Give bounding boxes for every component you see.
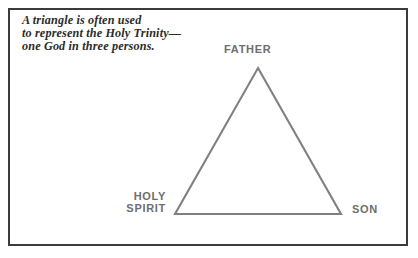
figure-page: A triangle is often used to represent th… [0, 0, 418, 258]
trinity-triangle-diagram [0, 0, 418, 258]
vertex-label-holy-spirit: HOLY SPIRIT [98, 190, 166, 214]
vertex-label-holy-spirit-line1: HOLY [98, 190, 166, 202]
vertex-label-father: FATHER [224, 43, 271, 55]
vertex-label-holy-spirit-line2: SPIRIT [98, 202, 166, 214]
triangle-shape [175, 68, 341, 214]
vertex-label-son: SON [352, 203, 378, 215]
